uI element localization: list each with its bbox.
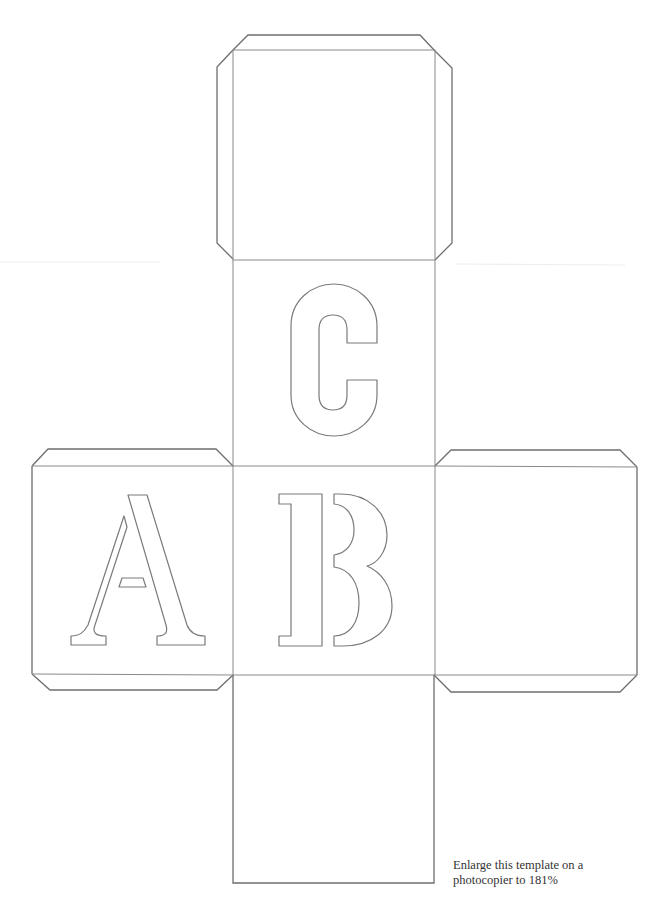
right-face-panel [434, 450, 637, 692]
right-face-top-fold [435, 466, 637, 467]
letter-b-bowls [334, 494, 392, 646]
letter-c-stencil [291, 284, 377, 436]
bottom-face-outline [233, 675, 434, 883]
a-face-panel [32, 449, 233, 690]
b-face-panel [233, 466, 435, 675]
enlarge-instruction-note: Enlarge this template on a photocopier t… [453, 858, 583, 888]
c-face-panel [233, 260, 435, 466]
left-top-flap [32, 449, 233, 466]
right-top-flap [435, 450, 637, 467]
left-face-bottom-fold [32, 674, 233, 675]
letter-b-stem [279, 494, 322, 646]
top-face [233, 50, 435, 260]
left-bottom-flap [32, 674, 233, 690]
top-face-panel [217, 35, 452, 260]
note-line-1: Enlarge this template on a [453, 858, 583, 873]
letter-a-thin-stroke [71, 516, 127, 645]
top-left-flap [217, 50, 233, 259]
top-flap [233, 35, 435, 51]
cube-net-template [0, 0, 664, 920]
top-right-flap [435, 51, 452, 260]
right-bottom-flap [434, 675, 637, 692]
bottom-face-panel [233, 675, 434, 883]
letter-a-crossbar [119, 578, 146, 587]
scan-artifact-line [455, 264, 625, 265]
letter-a-thick-stroke [128, 495, 205, 645]
note-line-2: photocopier to 181% [453, 873, 583, 888]
